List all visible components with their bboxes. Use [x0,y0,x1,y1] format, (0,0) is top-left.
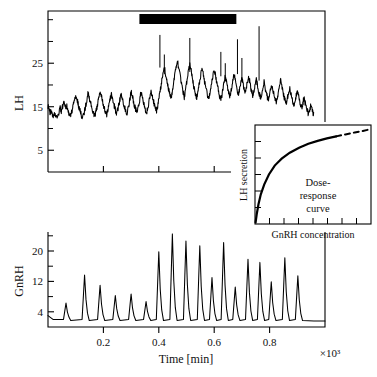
time-axis-label: Time [min] [159,352,214,366]
figure-svg: 51525 LH 41220 0.20.40.60.8 GnRH Time [m… [0,0,377,377]
inset-background [231,122,375,228]
gnrh-x-tick-label: 0.4 [152,336,166,348]
gnrh-y-tick-label: 20 [32,245,44,257]
gnrh-infusion-bar [139,14,236,24]
time-axis-multiplier: ×10³ [320,347,341,359]
gnrh-x-tick-label: 0.8 [263,336,277,348]
inset-caption-line-2: response [300,190,337,201]
lh-y-tick-label: 5 [38,144,44,156]
figure-root: 51525 LH 41220 0.20.40.60.8 GnRH Time [m… [0,0,377,377]
inset-caption-line-3: curve [306,203,330,214]
gnrh-y-tick-label: 4 [38,306,44,318]
inset-caption-line-1: Dose- [305,177,331,188]
lh-y-tick-label: 25 [32,57,44,69]
inset-x-axis-label: GnRH concentration [271,229,354,240]
gnrh-y-tick-label: 12 [32,275,43,287]
gnrh-x-tick-label: 0.6 [207,336,221,348]
lh-axis-label: LH [12,95,26,111]
inset-y-axis-label: LH secretion [238,149,249,201]
gnrh-x-tick-label: 0.2 [97,336,111,348]
gnrh-axis-label: GnRH [12,265,26,297]
lh-y-tick-label: 15 [32,101,44,113]
inset-dose-response-panel: LH secretion GnRH concentration Dose- re… [231,122,375,240]
